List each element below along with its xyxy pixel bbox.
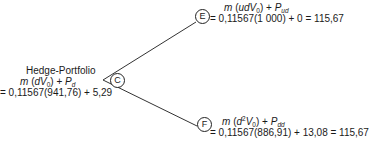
- up-value-line: = 0,11567(1 000) + 0 = 115,67: [210, 13, 344, 24]
- formula-p: P: [65, 76, 72, 87]
- formula-plus: +: [259, 116, 270, 127]
- hedge-portfolio-title: Hedge-Portfolio: [26, 65, 95, 76]
- down-value-line: = 0,11567(886,91) + 13,08 = 115,67: [210, 127, 369, 138]
- formula-m: m: [222, 116, 230, 127]
- node-e-circle: E: [195, 9, 210, 24]
- formula-plus: +: [263, 2, 274, 13]
- node-c-circle: C: [110, 73, 125, 88]
- formula-plus: +: [54, 76, 65, 87]
- down-formula: m (d2V0) + Pdd: [222, 116, 285, 127]
- node-f-label: F: [202, 119, 208, 129]
- formula-m: m: [224, 2, 232, 13]
- formula-ud: ud: [238, 2, 249, 13]
- root-value-line: = 0,11567(941,76) + 5,29: [0, 87, 112, 98]
- up-formula: m (udV0) + Pud: [224, 2, 289, 13]
- node-e-label: E: [199, 11, 205, 21]
- formula-m: m: [20, 76, 28, 87]
- formula-v: V: [40, 76, 47, 87]
- branch-up: [103, 22, 196, 80]
- node-c-label: C: [114, 75, 121, 85]
- root-formula: m (dV0) + Pd: [20, 76, 75, 87]
